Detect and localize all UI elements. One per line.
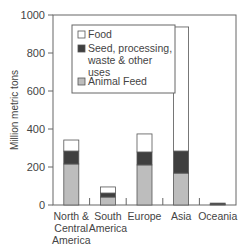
bar-segment bbox=[137, 165, 152, 205]
y-axis-label: Million metric tons bbox=[9, 70, 20, 150]
bar-segment bbox=[64, 164, 79, 205]
x-category-label: Europe bbox=[128, 210, 162, 222]
bar-segment bbox=[137, 134, 152, 152]
y-tick-label: 0 bbox=[39, 199, 45, 211]
x-category-label: North & bbox=[53, 210, 89, 222]
legend-label: Food bbox=[88, 28, 112, 40]
bar-segment bbox=[174, 27, 189, 151]
bar-segment bbox=[137, 152, 152, 165]
bar-segment bbox=[100, 187, 115, 193]
legend-swatch bbox=[78, 45, 85, 52]
bar-segment bbox=[210, 203, 225, 204]
y-tick-label: 600 bbox=[27, 85, 45, 97]
legend-swatch bbox=[78, 78, 85, 85]
legend-swatch bbox=[78, 31, 85, 38]
x-category-label: America bbox=[52, 234, 91, 246]
y-tick-label: 200 bbox=[27, 161, 45, 173]
bar-segment bbox=[174, 151, 189, 173]
y-tick-label: 1000 bbox=[21, 9, 45, 21]
legend-label: Seed, processing, bbox=[88, 42, 172, 54]
x-category-label: Central bbox=[54, 222, 88, 234]
y-tick-label: 400 bbox=[27, 123, 45, 135]
x-category-label: America bbox=[89, 222, 128, 234]
x-category-label: South bbox=[94, 210, 122, 222]
legend-label: waste & other bbox=[87, 54, 153, 66]
x-category-label: Oceania bbox=[198, 210, 237, 222]
bar-segment bbox=[174, 173, 189, 205]
y-tick-label: 800 bbox=[27, 47, 45, 59]
legend: FoodSeed, processing,waste & otherusesAn… bbox=[72, 25, 175, 93]
bar-segment bbox=[100, 193, 115, 197]
x-category-label: Asia bbox=[171, 210, 192, 222]
stacked-bar-chart: 02004006008001000North &CentralAmericaSo… bbox=[0, 0, 249, 249]
bar-segment bbox=[64, 151, 79, 164]
legend-label: Animal Feed bbox=[88, 75, 147, 87]
bar-segment bbox=[100, 197, 115, 205]
bar-segment bbox=[64, 140, 79, 151]
